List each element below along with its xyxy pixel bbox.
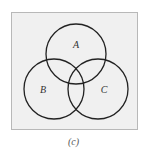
venn-diagram-figure: A B C (c) xyxy=(0,0,147,153)
set-c-label: C xyxy=(101,84,108,95)
venn-diagram: A B C xyxy=(0,0,147,153)
set-a-label: A xyxy=(72,39,80,50)
set-b-label: B xyxy=(40,84,46,95)
figure-caption: (c) xyxy=(0,136,147,147)
